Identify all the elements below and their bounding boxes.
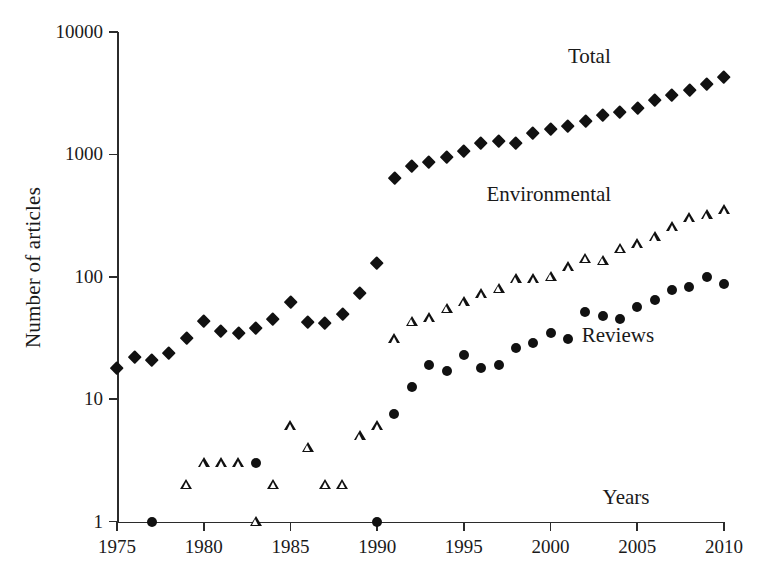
data-point-reviews-2008 [684, 282, 694, 292]
data-point-total-2006 [648, 93, 661, 106]
data-point-environmental-2001 [562, 261, 574, 271]
data-point-total-1998 [509, 136, 522, 149]
x-tick-label-2005: 2005 [602, 537, 672, 556]
data-point-total-1981 [214, 324, 227, 337]
data-point-total-2007 [665, 88, 678, 101]
data-point-total-1990 [370, 256, 383, 269]
data-point-total-1994 [440, 150, 453, 163]
data-point-reviews-1993 [424, 360, 434, 370]
x-tick-label-2000: 2000 [516, 537, 586, 556]
data-point-environmental-1998 [510, 273, 522, 283]
data-point-total-2008 [683, 83, 696, 96]
data-point-total-2003 [596, 108, 609, 121]
data-point-total-2005 [631, 101, 644, 114]
x-tick-label-1975: 1975 [82, 537, 152, 556]
data-point-total-2002 [579, 114, 592, 127]
data-point-total-1992 [405, 160, 418, 173]
data-point-reviews-2000 [546, 328, 556, 338]
data-point-reviews-2007 [667, 285, 677, 295]
data-point-environmental-2000 [545, 271, 557, 281]
data-point-environmental-1993 [423, 312, 435, 322]
data-point-total-1980 [197, 314, 210, 327]
y-tick-label-10: 10 [35, 389, 103, 408]
data-point-reviews-1995 [459, 350, 469, 360]
data-point-environmental-1985 [284, 420, 296, 430]
x-tick-2005 [636, 522, 638, 531]
data-point-environmental-1994 [441, 303, 453, 313]
data-point-total-1986 [301, 315, 314, 328]
data-point-environmental-1990 [371, 420, 383, 430]
data-point-reviews-2009 [702, 272, 712, 282]
y-tick-label-10000: 10000 [35, 22, 103, 41]
data-point-reviews-2010 [719, 279, 729, 289]
data-point-total-1996 [474, 136, 487, 149]
x-tick-1980 [203, 522, 205, 531]
y-tick-100 [109, 276, 118, 278]
data-point-environmental-2009 [701, 209, 713, 219]
data-point-reviews-2006 [650, 295, 660, 305]
data-point-environmental-2008 [683, 212, 695, 222]
data-point-environmental-2005 [631, 238, 643, 248]
data-point-environmental-2010 [718, 204, 730, 214]
data-point-environmental-1983 [250, 516, 262, 526]
annotation-reviews: Reviews [582, 325, 654, 346]
data-point-reviews-1991 [389, 409, 399, 419]
data-point-total-1985 [284, 295, 297, 308]
data-point-environmental-1982 [232, 457, 244, 467]
data-point-environmental-1995 [458, 296, 470, 306]
data-point-total-2010 [717, 70, 730, 83]
data-point-total-2009 [700, 77, 713, 90]
data-point-total-2004 [613, 105, 626, 118]
x-tick-label-1985: 1985 [255, 537, 325, 556]
data-point-environmental-1987 [319, 479, 331, 489]
x-tick-1990 [376, 522, 378, 531]
y-tick-1000 [109, 154, 118, 156]
data-point-environmental-1984 [267, 479, 279, 489]
data-point-reviews-1983 [251, 458, 261, 468]
data-point-environmental-1986 [302, 442, 314, 452]
data-point-total-1984 [266, 312, 279, 325]
data-point-total-2001 [561, 119, 574, 132]
x-tick-1995 [463, 522, 465, 531]
data-point-total-1976 [128, 351, 141, 364]
data-point-reviews-2002 [580, 307, 590, 317]
data-point-environmental-1997 [493, 283, 505, 293]
data-point-environmental-1988 [336, 479, 348, 489]
data-point-environmental-2007 [666, 221, 678, 231]
x-axis-line [117, 522, 724, 524]
data-point-reviews-1996 [476, 363, 486, 373]
annotation-total: Total [568, 46, 611, 67]
chart-figure: Number of articles 110100100010000 19751… [0, 0, 758, 584]
data-point-reviews-1994 [442, 366, 452, 376]
data-point-environmental-2002 [579, 253, 591, 263]
data-point-reviews-2005 [632, 302, 642, 312]
data-point-total-1999 [527, 126, 540, 139]
data-point-total-1987 [318, 316, 331, 329]
data-point-environmental-1989 [354, 430, 366, 440]
x-tick-label-2010: 2010 [689, 537, 758, 556]
data-point-total-1988 [336, 307, 349, 320]
data-point-reviews-2001 [563, 334, 573, 344]
x-tick-2000 [550, 522, 552, 531]
data-point-reviews-1992 [407, 382, 417, 392]
annotation-environmental: Environmental [486, 184, 611, 205]
y-tick-label-1000: 1000 [35, 144, 103, 163]
data-point-total-1989 [353, 286, 366, 299]
data-point-total-1983 [249, 321, 262, 334]
data-point-total-1982 [232, 326, 245, 339]
x-tick-1985 [290, 522, 292, 531]
data-point-environmental-2006 [649, 231, 661, 241]
data-point-environmental-1980 [198, 457, 210, 467]
annotation-years: Years [603, 487, 650, 508]
data-point-environmental-1981 [215, 457, 227, 467]
x-tick-label-1980: 1980 [169, 537, 239, 556]
y-tick-10 [109, 398, 118, 400]
data-point-reviews-2003 [598, 311, 608, 321]
data-point-environmental-1992 [406, 316, 418, 326]
data-point-total-1995 [457, 144, 470, 157]
data-point-total-1979 [180, 331, 193, 344]
data-point-reviews-1997 [494, 360, 504, 370]
data-point-total-1993 [422, 155, 435, 168]
x-tick-1975 [116, 522, 118, 531]
data-point-total-1997 [492, 134, 505, 147]
